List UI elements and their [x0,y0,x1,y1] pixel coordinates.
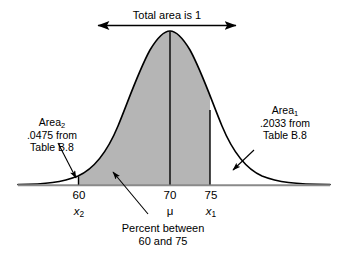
left-area-name-line: Area2 [27,116,77,129]
total-area-label: Total area is 1 [133,9,201,22]
tick-symbol-x1-sub: 1 [212,210,217,219]
right-area-name-line: Area1 [260,104,310,117]
shaded-region-caption: Percent between 60 and 75 [122,222,205,248]
left-area-value: .0475 from [27,129,77,141]
right-area-subscript: 1 [294,109,298,118]
caption-line-2: 60 and 75 [122,235,205,248]
tick-symbol-mu: μ [167,205,174,219]
tick-symbol-x2: x2 [74,205,84,219]
tick-label-70: 70 [164,189,177,203]
tick-symbol-x2-sub: 2 [80,210,85,219]
caption-line-1: Percent between [122,222,205,235]
right-area-annotation: Area1 .2033 from Table B.8 [260,104,310,142]
left-area-subscript: 2 [61,121,65,130]
tick-label-60: 60 [73,189,86,203]
right-area-source: Table B.8 [260,129,310,141]
left-area-name: Area [39,116,61,128]
tick-symbol-x2-var: x [74,205,80,217]
normal-distribution-figure: Total area is 1 Area2 .0475 from Table B… [0,0,347,262]
right-area-value: .2033 from [260,117,310,129]
tick-label-75: 75 [205,189,218,203]
tick-symbol-x1-var: x [206,205,212,217]
left-area-source: Table B.8 [27,141,77,153]
right-area-name: Area [272,104,294,116]
tick-symbol-x1: x1 [206,205,216,219]
left-area-annotation: Area2 .0475 from Table B.8 [27,116,77,154]
